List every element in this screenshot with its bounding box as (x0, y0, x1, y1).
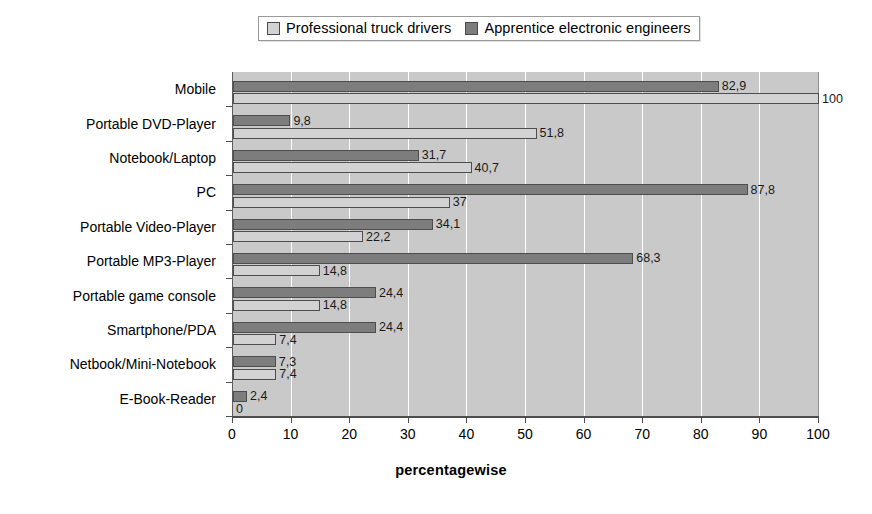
x-axis-tick (818, 416, 819, 423)
bar-group: 7,37,4 (233, 347, 818, 381)
bar-group: 2,40 (233, 382, 818, 416)
bar[interactable] (233, 162, 472, 173)
bar-group: 87,837 (233, 175, 818, 209)
bar[interactable] (233, 184, 748, 195)
bar[interactable] (233, 334, 276, 345)
bar[interactable] (233, 219, 433, 230)
chart-legend: Professional truck drivers Apprentice el… (258, 16, 700, 41)
bar-value-label: 82,9 (719, 79, 746, 93)
y-axis-label: Notebook/Laptop (109, 150, 216, 166)
x-axis-tick-label: 60 (576, 426, 592, 442)
bar[interactable] (233, 81, 719, 92)
bar[interactable] (233, 231, 363, 242)
bar-value-label: 14,8 (320, 264, 347, 278)
x-axis-tick-label: 50 (517, 426, 533, 442)
y-axis-label: Smartphone/PDA (107, 322, 216, 338)
y-axis-category-labels: MobilePortable DVD-PlayerNotebook/Laptop… (0, 72, 226, 416)
x-axis-tick (642, 416, 643, 423)
bar[interactable] (233, 287, 376, 298)
x-axis-tick-label: 0 (228, 426, 236, 442)
bar-value-label: 2,4 (247, 389, 267, 403)
y-axis-label: Portable game console (73, 288, 216, 304)
legend-label-apprentice-electronic-engineers: Apprentice electronic engineers (484, 20, 690, 36)
x-axis-tick (584, 416, 585, 423)
bar[interactable] (233, 322, 376, 333)
x-axis-tick (701, 416, 702, 423)
x-axis-tick-label: 20 (341, 426, 357, 442)
y-axis-label: Mobile (175, 81, 216, 97)
y-axis-label: Netbook/Mini-Notebook (70, 356, 216, 372)
x-axis-tick-label: 90 (752, 426, 768, 442)
y-axis-label: Portable MP3-Player (87, 253, 216, 269)
x-axis-tick-label: 80 (693, 426, 709, 442)
bar-value-label: 68,3 (633, 251, 660, 265)
legend-swatch-dark (465, 22, 478, 35)
chart-page: { "chart_data": { "type": "bar", "orient… (0, 0, 872, 514)
x-axis-ticks (232, 416, 818, 423)
bar-value-label: 7,4 (276, 333, 296, 347)
bar-value-label: 37 (450, 195, 467, 209)
bar-group: 24,47,4 (233, 313, 818, 347)
y-axis-label: E-Book-Reader (120, 391, 217, 407)
bar-group: 82,9100 (233, 72, 818, 106)
legend-label-professional-truck-drivers: Professional truck drivers (286, 20, 451, 36)
x-axis-tick-label: 30 (400, 426, 416, 442)
bar-value-label: 40,7 (472, 161, 499, 175)
y-axis-label: Portable DVD-Player (86, 116, 216, 132)
x-axis-title-text: percentagewise (395, 462, 507, 478)
bar-group: 68,314,8 (233, 244, 818, 278)
bar-group: 9,851,8 (233, 106, 818, 140)
x-axis-tick (232, 416, 233, 423)
bar-group: 34,122,2 (233, 210, 818, 244)
y-axis-label: PC (197, 184, 216, 200)
plot-area: 82,91009,851,831,740,787,83734,122,268,3… (232, 72, 818, 416)
bar[interactable] (233, 93, 819, 104)
bar[interactable] (233, 197, 450, 208)
bar-value-label: 0 (233, 402, 243, 416)
bar[interactable] (233, 115, 290, 126)
bar[interactable] (233, 128, 537, 139)
bar[interactable] (233, 253, 633, 264)
legend-swatch-light (267, 22, 280, 35)
x-axis-tick (759, 416, 760, 423)
bar-value-label: 34,1 (433, 217, 460, 231)
x-axis-tick (291, 416, 292, 423)
legend-item-apprentice-electronic-engineers: Apprentice electronic engineers (465, 20, 690, 36)
bar-value-label: 24,4 (376, 286, 403, 300)
x-axis-tick-labels: 0102030405060708090100 (232, 426, 818, 446)
x-axis-tick (349, 416, 350, 423)
bar-value-label: 31,7 (419, 148, 446, 162)
x-axis-tick (466, 416, 467, 423)
bar-value-label: 51,8 (537, 126, 564, 140)
bar-value-label: 22,2 (363, 230, 390, 244)
bar-group: 31,740,7 (233, 141, 818, 175)
bar[interactable] (233, 369, 276, 380)
bar-groups: 82,91009,851,831,740,787,83734,122,268,3… (233, 72, 818, 416)
bar-group: 24,414,8 (233, 278, 818, 312)
bar[interactable] (233, 300, 320, 311)
x-axis-tick-label: 10 (283, 426, 299, 442)
bar[interactable] (233, 150, 419, 161)
x-axis-tick-label: 40 (459, 426, 475, 442)
bar-value-label: 14,8 (320, 298, 347, 312)
bar-value-label: 100 (819, 92, 843, 106)
x-axis-title: percentagewise (0, 462, 872, 478)
gridline-100 (818, 72, 819, 416)
legend-item-professional-truck-drivers: Professional truck drivers (267, 20, 451, 36)
bar-value-label: 7,4 (276, 367, 296, 381)
x-axis-tick-label: 70 (634, 426, 650, 442)
bar-value-label: 24,4 (376, 320, 403, 334)
bar-value-label: 87,8 (748, 183, 775, 197)
y-axis-label: Portable Video-Player (80, 219, 216, 235)
bar[interactable] (233, 391, 247, 402)
x-axis-tick-label: 100 (806, 426, 829, 442)
bar-value-label: 9,8 (290, 114, 310, 128)
x-axis-tick (408, 416, 409, 423)
x-axis-tick (525, 416, 526, 423)
bar[interactable] (233, 356, 276, 367)
bar[interactable] (233, 265, 320, 276)
